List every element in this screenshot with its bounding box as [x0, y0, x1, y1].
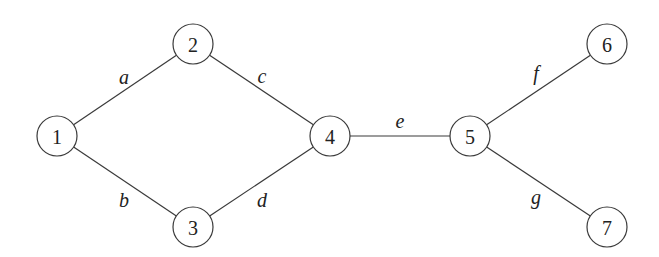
graph-canvas: abcdefg 1234567: [0, 0, 659, 257]
edge-label-d: d: [257, 189, 268, 211]
node-label: 2: [188, 34, 198, 56]
node-1: 1: [37, 116, 77, 156]
node-label: 1: [52, 126, 62, 148]
node-4: 4: [310, 116, 350, 156]
node-label: 7: [602, 217, 612, 239]
edge-label-b: b: [119, 189, 129, 211]
node-7: 7: [587, 207, 627, 247]
node-label: 6: [602, 34, 612, 56]
edge-label-a: a: [119, 66, 129, 88]
edge-label-g: g: [531, 186, 541, 209]
edge-label-c: c: [258, 65, 267, 87]
edge-label-f: f: [533, 62, 541, 85]
node-6: 6: [587, 24, 627, 64]
nodes-layer: 1234567: [37, 24, 627, 247]
node-label: 5: [465, 126, 475, 148]
node-5: 5: [450, 116, 490, 156]
node-label: 4: [325, 126, 335, 148]
node-2: 2: [173, 24, 213, 64]
node-3: 3: [173, 207, 213, 247]
node-label: 3: [188, 217, 198, 239]
graph-diagram: abcdefg 1234567: [0, 0, 659, 257]
edge-label-e: e: [396, 110, 405, 132]
